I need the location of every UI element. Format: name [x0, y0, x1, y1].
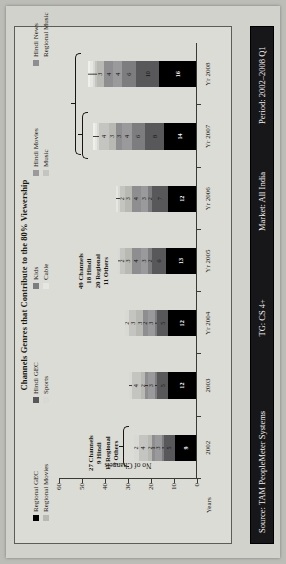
bar-segment[interactable]: 3 — [155, 435, 162, 461]
legend-label: Music — [42, 150, 50, 168]
bar-segment[interactable]: 5 — [157, 310, 169, 336]
bar-segment[interactable]: 2 — [134, 435, 139, 461]
bar-segment[interactable]: 1 — [93, 123, 95, 149]
bar-segment[interactable]: 1 — [95, 123, 97, 149]
bar-segment[interactable]: 6 — [132, 123, 146, 149]
legend-label: Hindi News — [32, 23, 40, 57]
bar-segment[interactable]: 3 — [116, 123, 123, 149]
bar-segment[interactable]: 14 — [164, 123, 196, 149]
bar-segment[interactable]: 13 — [166, 248, 196, 274]
bar-segment[interactable]: 9 — [175, 435, 196, 461]
legend-column-2: Hindi GEC Sports — [32, 362, 52, 403]
slide: Channels Genres that Contribute to the 8… — [6, 6, 280, 558]
y-axis-tick-label: 10 — [170, 483, 178, 505]
bar-segment[interactable]: 4 — [139, 435, 148, 461]
bar-segment[interactable]: 1 — [118, 248, 120, 274]
bar-segment[interactable]: 2 — [143, 310, 148, 336]
bar-segment[interactable]: 2 — [125, 310, 130, 336]
bar-segment[interactable]: 2 — [148, 435, 153, 461]
bar-segment[interactable]: 1 — [97, 123, 99, 149]
bar-segment[interactable]: 1 — [162, 435, 164, 461]
bar-segment[interactable]: 16 — [159, 61, 196, 87]
footer-source: Source: TAM PeopleMeter Systems — [257, 376, 267, 543]
bar-segment[interactable]: 12 — [168, 310, 196, 336]
callout-2002: 27 Channels9 Hindi11 Regional7 Others — [87, 435, 121, 471]
brace-annotation — [75, 53, 81, 155]
bar-segment[interactable]: 4 — [113, 61, 122, 87]
bar-segment[interactable]: 5 — [164, 435, 176, 461]
bar-stack[interactable]: 136234321 — [118, 248, 196, 274]
legend-column-4: Hindi Movies Music — [32, 128, 52, 176]
x-axis-title: Years — [205, 497, 213, 513]
x-axis-tick — [197, 104, 201, 105]
bar-segment[interactable]: 6 — [122, 61, 136, 87]
bar-segment[interactable]: 1 — [145, 373, 147, 399]
bar-stack[interactable]: 95131242 — [134, 435, 196, 461]
bar-segment[interactable]: 3 — [125, 248, 132, 274]
bar-segment[interactable]: 3 — [148, 310, 155, 336]
bar-stack[interactable]: 14864334111 — [93, 123, 197, 149]
x-axis-tick — [197, 416, 201, 417]
callout-2008: 49 Channels18 Hindi20 Regional11 Others — [77, 253, 111, 289]
legend-item-music: Music — [42, 128, 50, 176]
bar-segment[interactable]: 1 — [88, 61, 90, 87]
bar-stack[interactable]: 125131241 — [129, 373, 196, 399]
y-axis-tick-label: 50 — [78, 483, 86, 505]
bar-segment[interactable]: 1 — [90, 61, 92, 87]
bar-segment[interactable]: 2 — [141, 373, 146, 399]
bar-segment[interactable]: 3 — [109, 123, 116, 149]
bar-segment[interactable]: 7 — [152, 186, 168, 212]
bar-segment[interactable]: 4 — [104, 61, 113, 87]
plot-area: No of Channels Years 0102030405060200295… — [59, 43, 197, 479]
bar-segment[interactable]: 10 — [136, 61, 159, 87]
bar-segment[interactable]: 4 — [132, 248, 141, 274]
bar-segment[interactable]: 6 — [152, 248, 166, 274]
bar-segment[interactable]: 5 — [157, 373, 169, 399]
bar-segment[interactable]: 1 — [93, 61, 95, 87]
chart-container: Channels Genres that Contribute to the 8… — [14, 26, 232, 544]
bar-segment[interactable]: 3 — [125, 186, 132, 212]
bar-stack[interactable]: 1272343211 — [116, 186, 197, 212]
footer-tg: TG: CS 4+ — [257, 260, 267, 376]
bar-segment[interactable]: 2 — [120, 248, 125, 274]
x-axis-tick-label: Yr 2004 — [204, 312, 212, 335]
bar-segment[interactable]: 1 — [116, 186, 118, 212]
bar-segment[interactable]: 1 — [95, 61, 97, 87]
bar-stack[interactable]: 161064431111 — [88, 61, 196, 87]
bar-segment[interactable]: 1 — [152, 435, 154, 461]
bar-segment[interactable]: 1 — [129, 373, 131, 399]
legend-label: Regional GEC — [32, 471, 40, 512]
bar-segment[interactable]: 2 — [120, 186, 125, 212]
bar-segment[interactable]: 4 — [132, 186, 141, 212]
x-axis-line — [196, 43, 197, 479]
bar-segment[interactable]: 1 — [118, 186, 120, 212]
bar-stack[interactable]: 125132332 — [125, 310, 196, 336]
bar-segment[interactable]: 4 — [122, 123, 131, 149]
bar-segment[interactable]: 12 — [168, 186, 196, 212]
bar-segment[interactable]: 8 — [145, 123, 163, 149]
bar-segment[interactable]: 3 — [136, 310, 143, 336]
bar-segment[interactable]: 2 — [148, 186, 153, 212]
x-axis-tick-label: Yr 2008 — [204, 63, 212, 86]
slide-stage: Channels Genres that Contribute to the 8… — [0, 0, 286, 564]
bar-segment[interactable]: 1 — [155, 310, 157, 336]
bar-segment[interactable]: 3 — [97, 61, 104, 87]
y-axis-tick-label: 30 — [124, 483, 132, 505]
brace-annotation — [82, 112, 88, 158]
bar-segment[interactable]: 4 — [132, 373, 141, 399]
bar-segment[interactable]: 3 — [148, 373, 155, 399]
chart-title: Channels Genres that Contribute to the 8… — [19, 27, 29, 543]
legend-item-regional-gec: Regional GEC — [32, 464, 40, 521]
legend-swatch-icon — [33, 397, 39, 403]
legend-column-3: Kids Cable — [32, 264, 52, 289]
bar-segment[interactable]: 3 — [129, 310, 136, 336]
legend-label: Hindi GEC — [32, 362, 40, 394]
bar-segment[interactable]: 3 — [141, 248, 148, 274]
bar-segment[interactable]: 1 — [155, 373, 157, 399]
bar-segment[interactable]: 3 — [141, 186, 148, 212]
legend-swatch-icon — [33, 60, 39, 66]
bar-segment[interactable]: 4 — [99, 123, 108, 149]
bar-segment[interactable]: 2 — [148, 248, 153, 274]
legend-label: Cable — [42, 264, 50, 280]
bar-segment[interactable]: 12 — [168, 373, 196, 399]
